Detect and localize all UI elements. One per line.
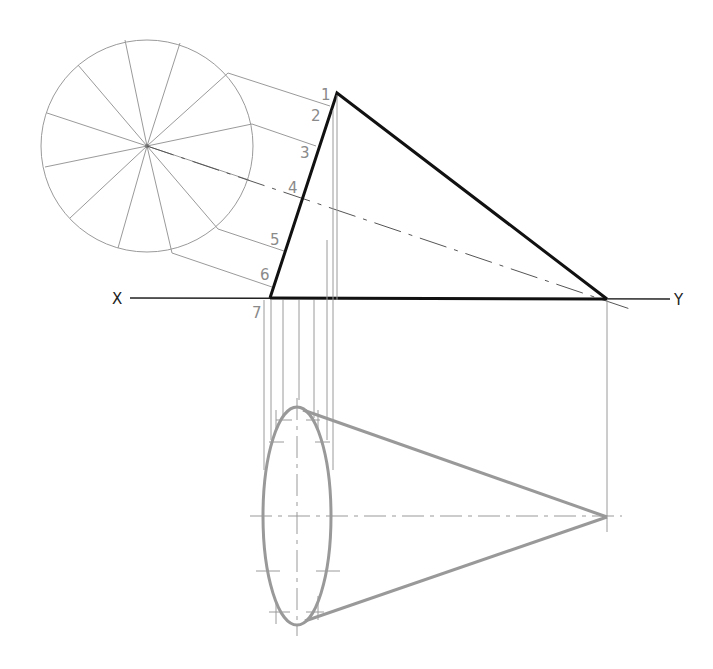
point-label-3: 3 — [300, 144, 310, 162]
point-label-1: 1 — [321, 86, 331, 104]
point-label-7: 7 — [252, 304, 262, 322]
label-y: Y — [673, 291, 684, 309]
ellipse-point-ticks — [256, 410, 340, 624]
elevation-view-cone — [270, 93, 607, 299]
cone-projection-drawing: X Y 1 2 3 4 5 6 7 — [0, 0, 713, 669]
point-label-4: 4 — [288, 179, 298, 197]
point-label-5: 5 — [270, 231, 280, 249]
point-label-6: 6 — [260, 266, 270, 284]
plan-upper-generator — [303, 410, 607, 517]
plan-view-cone — [250, 398, 622, 636]
plan-lower-generator — [305, 517, 607, 621]
projection-lines-circle-to-base — [172, 73, 330, 287]
label-x: X — [112, 290, 122, 308]
point-label-2: 2 — [311, 107, 321, 125]
